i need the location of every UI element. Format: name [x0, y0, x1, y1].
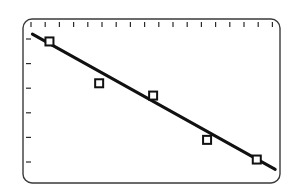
data-point-marker — [203, 136, 211, 144]
regression-line — [32, 34, 275, 169]
data-point-marker — [45, 37, 53, 45]
x-axis-ticks — [31, 22, 272, 27]
data-point-marker — [149, 92, 157, 100]
y-axis-ticks — [26, 39, 31, 162]
scatter-chart — [0, 0, 293, 185]
data-point-marker — [95, 79, 103, 87]
data-point-marker — [253, 156, 261, 164]
